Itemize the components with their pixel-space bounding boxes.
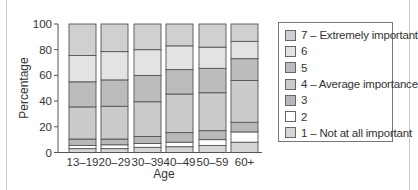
bar-segment	[199, 68, 226, 92]
x-axis: 13–1920–2930–3940–4950–5960+	[58, 153, 262, 169]
bar-segment	[231, 142, 258, 152]
bar-segment	[69, 24, 96, 55]
bar-segment	[166, 147, 193, 153]
bar-segment	[231, 41, 258, 58]
bar-segment	[166, 142, 193, 146]
bar-segment	[69, 149, 96, 153]
bar-segment	[166, 133, 193, 143]
bar-segment	[101, 52, 128, 80]
bar-segment	[134, 102, 161, 137]
bar-segment	[231, 24, 258, 41]
legend-swatch	[285, 111, 296, 122]
legend-item-6: 6	[285, 43, 392, 59]
bar-segment	[134, 24, 161, 50]
legend-swatch	[285, 46, 296, 57]
bar-40–49	[166, 24, 193, 153]
legend-item-5: 5	[285, 60, 392, 76]
legend-label: 5	[301, 62, 307, 74]
bar-30–39	[134, 24, 161, 153]
legend-swatch	[285, 127, 296, 138]
legend-item-1: 1 – Not at all important	[285, 125, 392, 141]
bar-segment	[231, 59, 258, 81]
bars	[69, 24, 258, 153]
bar-segment	[134, 147, 161, 152]
legend-swatch	[285, 79, 296, 90]
bar-segment	[166, 70, 193, 94]
legend-item-4: 4 – Average importance	[285, 76, 392, 92]
bar-segment	[231, 122, 258, 132]
bar-segment	[69, 145, 96, 148]
legend-swatch	[285, 30, 296, 41]
y-tick-label: 40	[39, 95, 52, 107]
y-tick-label: 0	[46, 147, 52, 159]
legend-label: 3	[301, 94, 307, 106]
bar-segment	[199, 140, 226, 146]
legend-label: 1 – Not at all important	[301, 127, 412, 139]
bar-segment	[101, 80, 128, 106]
bar-segment	[199, 145, 226, 152]
legend-item-3: 3	[285, 92, 392, 108]
bar-segment	[69, 55, 96, 81]
legend-label: 7 – Extremely important	[301, 29, 418, 41]
y-tick-label: 20	[39, 121, 52, 133]
bar-segment	[166, 94, 193, 133]
legend-label: 2	[301, 111, 307, 123]
bar-segment	[166, 24, 193, 46]
bar-segment	[101, 145, 128, 149]
legend-item-7: 7 – Extremely important	[285, 27, 392, 43]
bar-segment	[134, 136, 161, 143]
bar-segment	[101, 149, 128, 153]
y-tick-label: 60	[39, 69, 52, 81]
bar-segment	[101, 139, 128, 145]
bar-segment	[101, 24, 128, 52]
x-tick-label: 50–59	[197, 156, 229, 168]
bar-13–19	[69, 24, 96, 153]
bar-segment	[231, 81, 258, 123]
y-tick-label: 80	[39, 44, 52, 56]
x-axis-title: Age	[153, 167, 175, 181]
bar-segment	[199, 24, 226, 47]
bar-segment	[199, 93, 226, 131]
bar-segment	[199, 47, 226, 68]
bar-segment	[69, 139, 96, 145]
x-tick-label: 60+	[235, 156, 255, 168]
legend-label: 6	[301, 45, 307, 57]
bar-segment	[199, 131, 226, 140]
bar-segment	[134, 75, 161, 101]
bar-segment	[101, 106, 128, 139]
bar-segment	[231, 132, 258, 142]
bar-60+	[231, 24, 258, 153]
legend-label: 4 – Average importance	[301, 78, 418, 90]
bar-segment	[69, 82, 96, 107]
x-tick-label: 20–29	[99, 156, 131, 168]
y-tick-label: 100	[33, 18, 52, 30]
legend-swatch	[285, 95, 296, 106]
bar-50–59	[199, 24, 226, 153]
bar-segment	[166, 46, 193, 70]
y-axis: 020406080100	[33, 18, 58, 159]
bar-20–29	[101, 24, 128, 153]
bar-segment	[134, 144, 161, 148]
y-axis-title: Percentage	[17, 57, 31, 119]
bar-segment	[134, 50, 161, 76]
legend: 7 – Extremely important 6 5 4 – Average …	[278, 22, 393, 142]
legend-item-2: 2	[285, 108, 392, 124]
legend-swatch	[285, 62, 296, 73]
x-tick-label: 13–19	[67, 156, 99, 168]
bar-segment	[69, 107, 96, 139]
